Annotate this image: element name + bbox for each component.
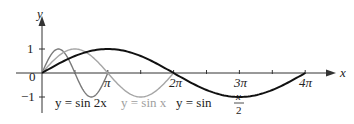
x-tick-label-3pi: 3π (233, 75, 248, 90)
legend-sin-half-x: y = sin (176, 95, 212, 110)
legend-sin-2x: y = sin 2x (55, 95, 107, 110)
x-axis-label: x (339, 65, 346, 80)
x-tick-label-pi: π (104, 75, 111, 90)
x-axis-arrow-icon (326, 70, 336, 77)
y-tick-label-neg1: −1 (21, 89, 35, 104)
legend-frac-num: x (235, 90, 241, 102)
x-tick-label-2pi: 2π (169, 75, 183, 90)
origin-label: 0 (29, 69, 36, 84)
sine-graph: y x 1 0 −1 π 2π 3π 4π y = sin 2x y = sin… (0, 0, 354, 124)
legend-frac-den: 2 (236, 104, 242, 116)
x-tick-label-4pi: 4π (299, 75, 313, 90)
legend-sin-x: y = sin x (121, 95, 167, 110)
y-axis-label: y (35, 6, 43, 21)
y-tick-label-1: 1 (27, 41, 34, 56)
